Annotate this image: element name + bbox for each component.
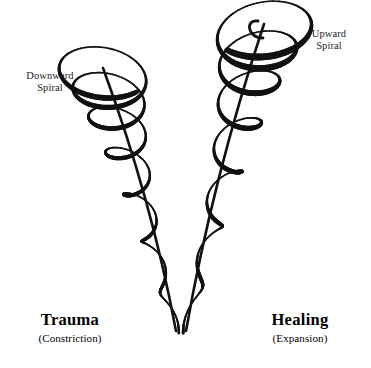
downward-spiral-annotation: Downward Spiral (8, 70, 92, 95)
trauma-title: Trauma (2, 310, 138, 330)
trauma-label: Trauma (Constriction) (2, 310, 138, 344)
trauma-subtitle: (Constriction) (2, 332, 138, 344)
upward-spiral-annotation: Upward Spiral (294, 28, 364, 53)
healing-title: Healing (232, 310, 368, 330)
healing-subtitle: (Expansion) (232, 332, 368, 344)
healing-label: Healing (Expansion) (232, 310, 368, 344)
spiral-diagram: Downward Spiral Upward Spiral Trauma (Co… (0, 0, 371, 368)
